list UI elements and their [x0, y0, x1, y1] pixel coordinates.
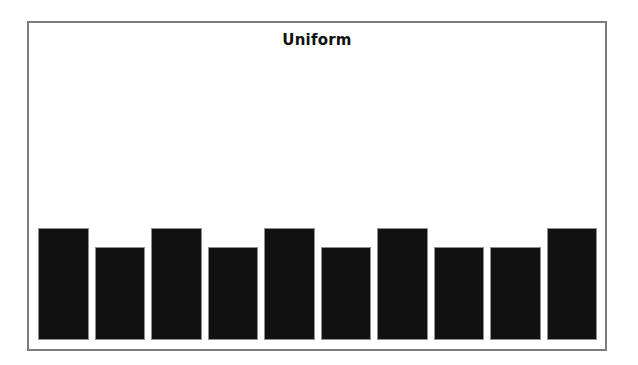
- bar: [547, 228, 598, 340]
- chart-title: Uniform: [29, 31, 605, 49]
- bar: [208, 247, 259, 340]
- bars-area: [38, 227, 597, 340]
- bar: [151, 228, 202, 340]
- bar: [38, 228, 89, 340]
- bar: [321, 247, 372, 340]
- bar: [490, 247, 541, 340]
- bar: [264, 228, 315, 340]
- figure-frame: Uniform: [27, 21, 607, 351]
- bar: [95, 247, 146, 340]
- bar: [377, 228, 428, 340]
- chart-canvas: Uniform: [0, 0, 638, 365]
- bar: [434, 247, 485, 340]
